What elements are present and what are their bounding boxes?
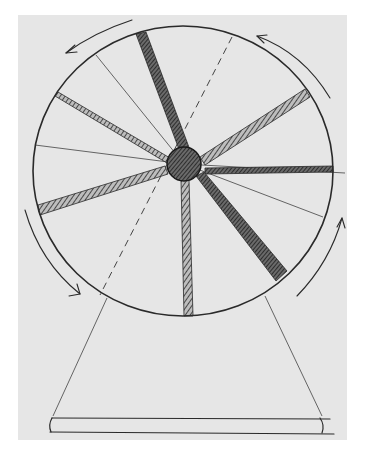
wheel-sketch	[0, 0, 365, 456]
wheel-hub	[167, 147, 201, 181]
